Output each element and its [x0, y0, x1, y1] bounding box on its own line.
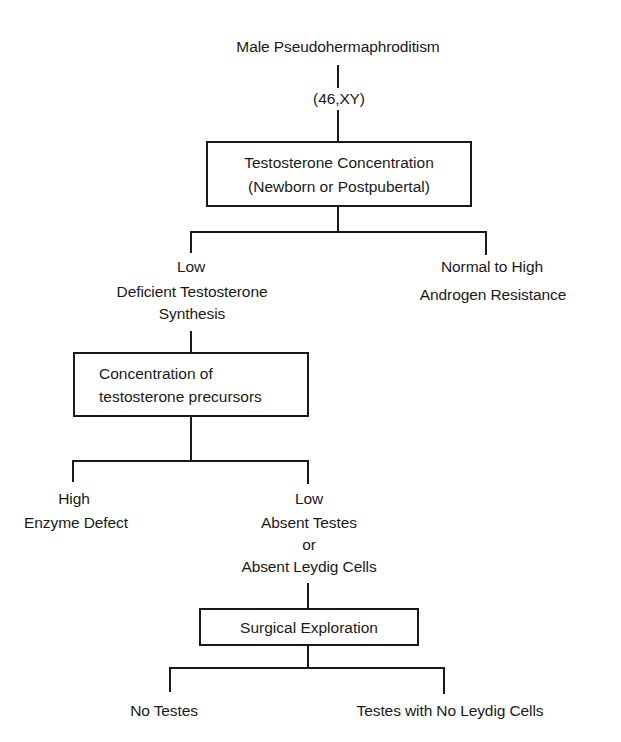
branch-low-line2: Synthesis — [159, 305, 225, 323]
precursor-low-line1: Absent Testes — [261, 514, 357, 532]
box3-label: Surgical Exploration — [240, 617, 378, 638]
precursor-high-diagnosis: Enzyme Defect — [24, 514, 128, 532]
branch-high-diagnosis: Androgen Resistance — [420, 286, 566, 304]
precursor-low-level: Low — [295, 490, 323, 508]
outcome-testes-no-leydig: Testes with No Leydig Cells — [357, 702, 544, 720]
outcome-no-testes: No Testes — [130, 702, 198, 720]
precursor-concentration-box: Concentration of testosterone precursors — [73, 352, 309, 417]
box2-line1: Concentration of — [99, 363, 213, 384]
branch-low-level: Low — [177, 258, 205, 276]
box1-line2: (Newborn or Postpubertal) — [248, 176, 430, 197]
karyotype-label: (46,XY) — [313, 90, 365, 108]
precursor-high-level: High — [58, 490, 89, 508]
root-title: Male Pseudohermaphroditism — [236, 38, 439, 56]
testosterone-concentration-box: Testosterone Concentration (Newborn or P… — [206, 141, 472, 207]
box2-line2: testosterone precursors — [99, 386, 262, 407]
branch-low-line1: Deficient Testosterone — [117, 283, 268, 301]
branch-high-level: Normal to High — [441, 258, 543, 276]
precursor-low-line3: Absent Leydig Cells — [241, 558, 376, 576]
surgical-exploration-box: Surgical Exploration — [199, 608, 419, 646]
flowchart-canvas: Male Pseudohermaphroditism (46,XY) Testo… — [0, 0, 621, 742]
box1-line1: Testosterone Concentration — [244, 152, 434, 173]
precursor-low-line2: or — [302, 536, 316, 554]
